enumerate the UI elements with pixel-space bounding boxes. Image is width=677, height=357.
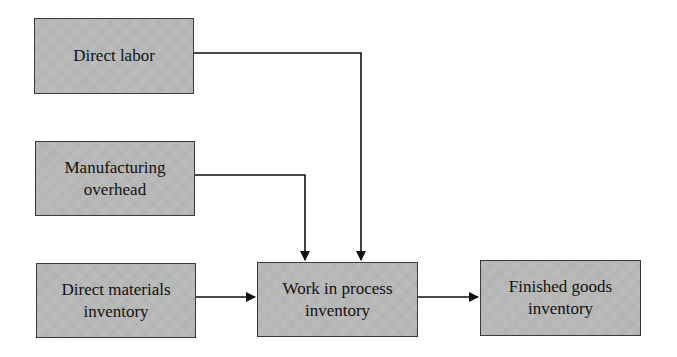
- edge-overhead-to-wip: [195, 175, 305, 260]
- node-label-line1: Finished goods: [509, 276, 612, 298]
- node-label-line2: overhead: [84, 179, 146, 201]
- node-label-line2: inventory: [305, 300, 370, 322]
- node-work-in-process-inventory: Work in process inventory: [257, 262, 418, 337]
- node-finished-goods-inventory: Finished goods inventory: [480, 260, 641, 336]
- node-label: Direct labor: [73, 45, 155, 67]
- node-direct-materials-inventory: Direct materials inventory: [36, 263, 196, 338]
- node-label-line2: inventory: [528, 298, 593, 320]
- node-label-line2: inventory: [83, 301, 148, 323]
- node-manufacturing-overhead: Manufacturing overhead: [35, 141, 195, 216]
- node-label-line1: Manufacturing: [64, 157, 165, 179]
- node-direct-labor: Direct labor: [34, 18, 194, 94]
- edge-direct-labor-to-wip: [194, 53, 361, 260]
- node-label-line1: Work in process: [282, 278, 392, 300]
- node-label-line1: Direct materials: [61, 279, 170, 301]
